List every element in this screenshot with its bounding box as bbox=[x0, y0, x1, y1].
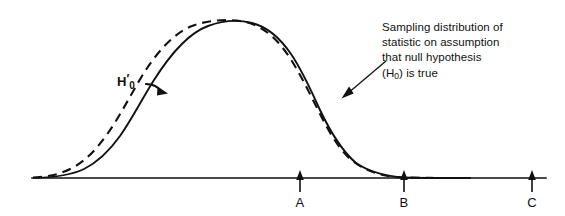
annotation-line-3: that null hypothesis bbox=[382, 50, 562, 65]
annotation-h-suffix: ) is true bbox=[399, 67, 438, 79]
alternative-hypothesis-label: H′0 bbox=[117, 73, 135, 91]
annotation-text-block: Sampling distribution of statistic on as… bbox=[382, 20, 562, 84]
alt-label-subscript: 0 bbox=[129, 80, 135, 91]
axis-label-b: B bbox=[394, 196, 414, 209]
axis-marker-arrow-a bbox=[296, 170, 304, 192]
annotation-line-2: statistic on assumption bbox=[382, 35, 562, 50]
axis-label-c: C bbox=[522, 196, 542, 209]
annotation-leader-arrow bbox=[342, 61, 387, 99]
alt-label-symbol: H bbox=[117, 74, 126, 89]
annotation-line-1: Sampling distribution of bbox=[382, 20, 562, 35]
annotation-line-4: (H0) is true bbox=[382, 66, 562, 84]
axis-marker-arrow-b bbox=[400, 170, 408, 192]
axis-label-a: A bbox=[290, 196, 310, 209]
alt-hypothesis-pointer-arrow bbox=[146, 84, 168, 96]
annotation-h-prefix: (H bbox=[382, 67, 394, 79]
sampling-distribution-figure: Sampling distribution of statistic on as… bbox=[0, 0, 565, 216]
axis-marker-arrow-c bbox=[528, 170, 536, 192]
